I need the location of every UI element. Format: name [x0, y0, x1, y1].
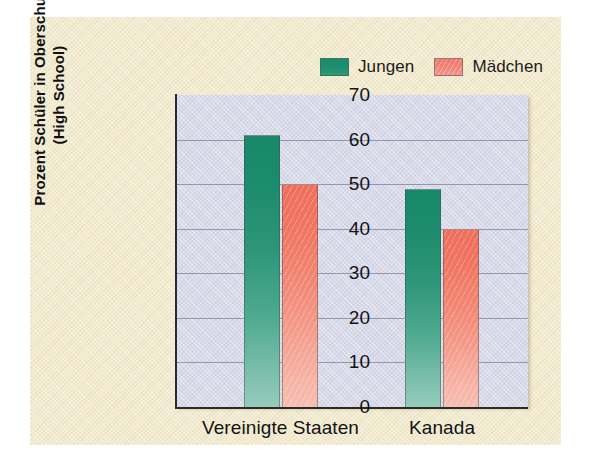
y-axis-line: [175, 94, 177, 408]
legend-entry-maedchen: Mädchen: [434, 57, 543, 77]
y-tick-label-40: 40: [324, 218, 370, 240]
legend-label-jungen: Jungen: [358, 57, 414, 77]
y-tick-label-30: 30: [324, 262, 370, 284]
legend-swatch-maedchen: [434, 58, 463, 76]
y-tick-label-50: 50: [324, 173, 370, 195]
chart-legend: Jungen Mädchen: [320, 57, 543, 77]
bar-maedchen-1: [443, 229, 479, 407]
x-axis-label-1: Kanada: [409, 417, 475, 439]
figure-root: Jungen Mädchen Prozent Schüler in Obersc…: [0, 0, 591, 461]
bar-jungen-1: [405, 189, 441, 407]
legend-swatch-jungen: [320, 58, 349, 76]
y-tick-label-0: 0: [324, 396, 370, 418]
y-axis-title: Prozent Schüler in Oberschule (High Scho…: [30, 0, 70, 251]
legend-label-maedchen: Mädchen: [472, 57, 543, 77]
figure-panel: Jungen Mädchen Prozent Schüler in Obersc…: [30, 17, 561, 445]
legend-entry-jungen: Jungen: [320, 57, 414, 77]
x-axis-label-0: Vereinigte Staaten: [202, 417, 359, 439]
y-tick-label-60: 60: [324, 129, 370, 151]
y-axis-title-line1: Prozent Schüler in Oberschule: [31, 0, 50, 206]
plot-wrapper: 706050403020100Vereinigte StaatenKanada: [177, 95, 528, 408]
y-tick-label-10: 10: [324, 351, 370, 373]
bar-maedchen-0: [282, 184, 318, 407]
y-axis-title-line2: (High School): [50, 0, 69, 206]
bar-jungen-0: [244, 135, 280, 407]
y-tick-label-70: 70: [324, 84, 370, 106]
y-tick-label-20: 20: [324, 307, 370, 329]
